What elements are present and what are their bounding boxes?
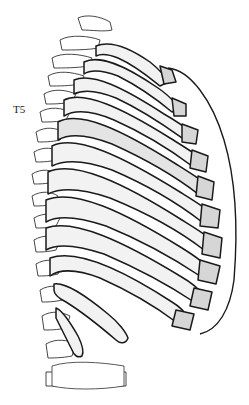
rib-cage-illustration: T5: [0, 0, 249, 405]
ribs: [46, 44, 222, 357]
lumbar-vertebra: [52, 362, 124, 389]
vertebra-label-t5: T5: [13, 104, 25, 115]
rib-cage-drawing: [0, 0, 249, 405]
